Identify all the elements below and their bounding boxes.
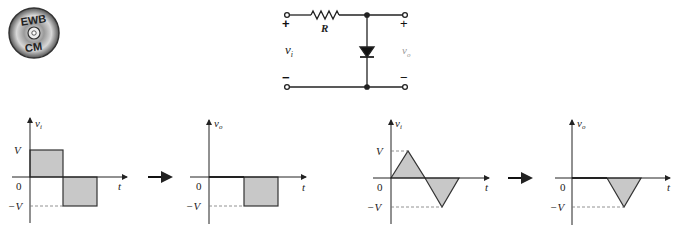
y-axis-label: vi <box>395 117 402 131</box>
output-minus-sign: − <box>400 70 408 85</box>
tick-zero: 0 <box>196 180 202 192</box>
ewb-cm-logo: EWB CM <box>9 8 59 58</box>
graph-square-output: vo 0 −V t <box>186 117 306 224</box>
input-voltage-label: vi <box>285 42 293 59</box>
tick-neg-v: −V <box>8 200 23 212</box>
tick-v: V <box>376 145 384 157</box>
x-axis-label: t <box>485 181 489 193</box>
clipper-circuit <box>285 11 408 89</box>
x-axis-label: t <box>667 181 671 193</box>
output-plus-sign: + <box>400 16 408 31</box>
x-axis-label: t <box>118 180 122 192</box>
graph-square-input: vi V 0 −V t <box>8 117 127 223</box>
tick-neg-v: −V <box>367 201 382 213</box>
tick-zero: 0 <box>377 181 383 193</box>
output-voltage-label: vo <box>402 44 411 59</box>
tick-neg-v: −V <box>550 201 565 213</box>
resistor-label: R <box>320 22 328 34</box>
y-axis-label: vo <box>214 117 223 131</box>
tick-neg-v: −V <box>186 200 201 212</box>
graph-triangle-output: vo 0 −V t <box>550 117 671 225</box>
tick-v: V <box>14 144 22 156</box>
y-axis-label: vi <box>35 117 42 131</box>
tick-zero: 0 <box>16 180 22 192</box>
input-plus-sign: + <box>282 16 290 31</box>
x-axis-label: t <box>302 181 306 193</box>
diode-icon <box>360 47 374 57</box>
input-minus-sign: − <box>282 70 290 85</box>
graph-triangle-input: vi V 0 −V t <box>367 117 489 224</box>
y-axis-label: vo <box>577 117 586 131</box>
logo-bottom-text: CM <box>24 40 43 54</box>
tick-zero: 0 <box>560 181 566 193</box>
